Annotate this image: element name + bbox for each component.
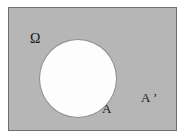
set-a-label: A	[102, 102, 111, 115]
universal-set-rectangle: Ω A A ’	[8, 7, 177, 131]
universal-set-label: Ω	[30, 32, 40, 46]
set-a-circle: A	[39, 39, 117, 118]
set-a-complement-label: A ’	[141, 91, 157, 104]
venn-diagram-canvas: Ω A A ’	[0, 0, 184, 139]
